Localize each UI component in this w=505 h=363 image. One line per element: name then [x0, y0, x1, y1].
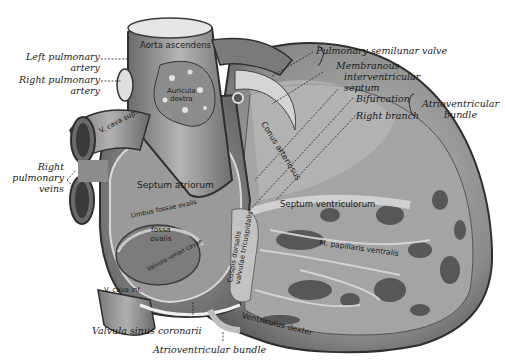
label-line: interventricular	[336, 71, 420, 82]
label-valvula-sinus-coronarii: Valvula sinus coronarii	[92, 325, 202, 336]
label-aorta-ascendens: Aorta ascendens	[140, 41, 211, 50]
label-v-cava-inferior: V. cava inf.	[104, 286, 142, 295]
label-line: septum	[336, 82, 420, 93]
label-line: Auricula	[167, 87, 196, 95]
label-line: Membranous	[336, 60, 420, 71]
label-line: Left pulmonary	[18, 51, 100, 62]
label-line: Right pulmonary	[10, 74, 100, 85]
label-line: fossa	[150, 225, 172, 234]
label-right-pulmonary-veins: Right pulmonary veins	[2, 161, 64, 194]
label-line: Atrioventricular	[418, 98, 503, 109]
heart-anatomy-diagram: Left pulmonary artery Right pulmonary ar…	[0, 0, 505, 363]
label-septum-atriorum: Septum atriorum	[137, 181, 214, 190]
label-line: bundle	[418, 109, 503, 120]
label-line: ovalis	[150, 234, 172, 243]
label-line: dextra	[167, 95, 196, 103]
label-line: artery	[10, 85, 100, 96]
label-atrioventricular-bundle: Atrioventricular bundle	[153, 344, 266, 355]
label-auricula-dextra: Auricula dextra	[167, 87, 196, 103]
label-line: veins	[2, 183, 64, 194]
label-right-branch: Right branch	[356, 110, 419, 121]
label-atrioventricular-bundle-group: Atrioventricular bundle	[418, 98, 503, 120]
label-right-pulmonary-artery: Right pulmonary artery	[10, 74, 100, 96]
label-membranous-interventricular-septum: Membranous interventricular septum	[336, 60, 420, 93]
label-line: artery	[18, 62, 100, 73]
label-left-pulmonary-artery: Left pulmonary artery	[18, 51, 100, 73]
label-fossa-ovalis: fossa ovalis	[150, 225, 172, 243]
label-pulmonary-semilunar-valve: Pulmonary semilunar valve	[316, 45, 447, 56]
label-septum-ventriculorum: Septum ventriculorum	[280, 200, 375, 209]
label-line: pulmonary	[2, 172, 64, 183]
label-line: Right	[2, 161, 64, 172]
label-bifurcation: Bifurcation	[356, 93, 410, 104]
